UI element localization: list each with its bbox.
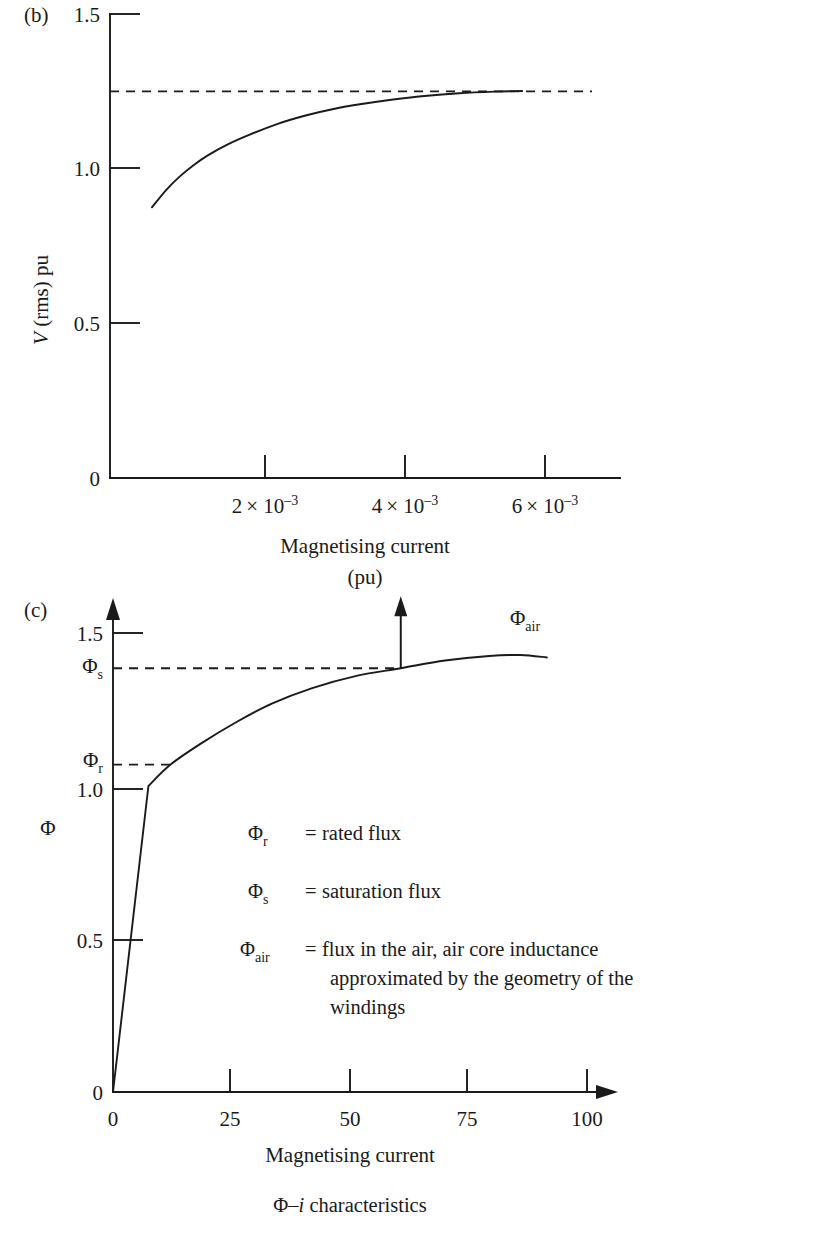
panel-c-legend-eq-1: = <box>305 880 317 902</box>
svg-text:2× 10–3: 2× 10–3 <box>232 493 299 518</box>
panel-b-x-axis-title-line1: Magnetising current <box>280 534 450 558</box>
panel-b-xlabel-4e-3-base: × 10 <box>386 494 424 518</box>
panel-c-legend-symbol-2: Φair <box>240 938 270 965</box>
panel-b-tag: (b) <box>24 3 49 27</box>
panel-c-tag: (c) <box>24 598 47 622</box>
panel-b-xlabel-4e-3-mantissa: 4 <box>372 494 383 518</box>
panel-c-annotation-arrow-head <box>394 596 407 616</box>
panel-c-legend: Φr = rated flux Φs = saturation flux Φai… <box>240 822 633 1019</box>
panel-c-marker-label-phi-r: Φr <box>83 748 103 776</box>
panel-c-marker-phi-r-sub: r <box>98 761 103 776</box>
panel-b-xlabel-2e-3-exp: –3 <box>283 493 298 508</box>
panel-c-legend-symbol-1: Φs <box>248 880 268 907</box>
panel-c-marker-label-phi-s: Φs <box>82 654 103 682</box>
figure-caption: Φ–i characteristics <box>273 1194 426 1216</box>
panel-c-legend-symbol-0-base: Φ <box>248 822 263 844</box>
svg-text:4× 10–3: 4× 10–3 <box>372 493 439 518</box>
panel-c-legend-eq-0: = <box>305 822 317 844</box>
panel-b-ylabel-0.5: 0.5 <box>74 312 100 336</box>
svg-text:6× 10–3: 6× 10–3 <box>512 493 579 518</box>
panel-b-xlabel-6e-3-exp: –3 <box>563 493 578 508</box>
panel-c-xlabel-0: 0 <box>108 1107 119 1131</box>
panel-c-legend-symbol-2-base: Φ <box>240 938 255 960</box>
figure-caption-rest: characteristics <box>304 1194 426 1216</box>
panel-c-ylabel-1.5: 1.5 <box>77 622 103 646</box>
panel-b-ylabel-0: 0 <box>90 467 101 491</box>
chart-panel-b: (b) 1.5 1.0 0.5 0 2× 10–3 <box>0 0 815 600</box>
panel-c-marker-phi-s-symbol: Φ <box>82 654 97 678</box>
panel-b-plot-area <box>110 91 592 207</box>
panel-c-marker-phi-r-symbol: Φ <box>83 748 98 772</box>
panel-c-marker-phi-s-sub: s <box>98 667 103 682</box>
panel-c-legend-text-0: rated flux <box>322 822 401 844</box>
figure-page: (b) 1.5 1.0 0.5 0 2× 10–3 <box>0 0 815 1233</box>
panel-b-xlabel-4e-3-exp: –3 <box>423 493 438 508</box>
panel-c-x-axis-title: Magnetising current <box>265 1143 435 1167</box>
panel-c-legend-text-1: saturation flux <box>322 880 441 902</box>
panel-c-legend-symbol-0: Φr <box>248 822 268 849</box>
panel-b-x-axis-title-line2: (pu) <box>348 565 383 589</box>
figure-caption-symbol: Φ– <box>273 1194 299 1216</box>
panel-c-legend-symbol-1-base: Φ <box>248 880 263 902</box>
panel-c-annotation-label-phi-air: Φair <box>510 606 540 634</box>
panel-c-legend-symbol-1-sub: s <box>263 892 268 907</box>
panel-c-svg: (c) 1.5 1.0 0.5 0 Φs Φr <box>0 595 815 1233</box>
panel-b-xlabel-2e-3: 2× 10–3 <box>232 493 299 518</box>
panel-c-y-axis-title: Φ <box>40 816 55 840</box>
panel-c-annotation-phi-air-symbol: Φ <box>510 606 525 630</box>
panel-b-ylabel-1.0: 1.0 <box>74 157 100 181</box>
panel-c-xlabel-50: 50 <box>340 1107 361 1131</box>
chart-panel-c: (c) 1.5 1.0 0.5 0 Φs Φr <box>0 595 815 1233</box>
panel-c-annotation-phi-air-sub: air <box>525 619 540 634</box>
panel-c-legend-text-2-line2: approximated by the geometry of the <box>330 967 633 990</box>
panel-b-y-axis-title-rest: (rms) pu <box>29 255 53 332</box>
panel-c-series-0 <box>113 655 547 1092</box>
panel-b-xlabel-6e-3-mantissa: 6 <box>512 494 523 518</box>
panel-b-ylabel-1.5: 1.5 <box>74 3 100 27</box>
panel-b-xlabel-6e-3: 6× 10–3 <box>512 493 579 518</box>
panel-c-legend-eq-2: = <box>305 938 317 960</box>
panel-c-legend-symbol-2-sub: air <box>255 950 270 965</box>
panel-c-ylabel-0.5: 0.5 <box>77 929 103 953</box>
panel-b-y-axis-title: V (rms) pu <box>29 255 53 345</box>
panel-c-xlabel-25: 25 <box>220 1107 241 1131</box>
panel-b-xlabel-6e-3-base: × 10 <box>526 494 564 518</box>
panel-b-xlabel-2e-3-base: × 10 <box>246 494 284 518</box>
panel-c-ylabel-0: 0 <box>93 1081 104 1105</box>
panel-c-ylabel-1.0: 1.0 <box>77 778 103 802</box>
panel-c-legend-text-2-line3: windings <box>330 996 405 1019</box>
panel-c-y-axis-arrowhead <box>106 598 120 620</box>
panel-c-xlabel-100: 100 <box>571 1107 603 1131</box>
panel-b-series-0 <box>152 91 522 207</box>
panel-b-svg: (b) 1.5 1.0 0.5 0 2× 10–3 <box>0 0 815 600</box>
panel-b-xlabel-2e-3-mantissa: 2 <box>232 494 243 518</box>
panel-c-x-axis-arrowhead <box>596 1085 618 1099</box>
panel-c-legend-text-2-line1: flux in the air, air core inductance <box>322 938 598 960</box>
panel-b-xlabel-4e-3: 4× 10–3 <box>372 493 439 518</box>
panel-c-xlabel-75: 75 <box>457 1107 478 1131</box>
panel-c-legend-symbol-0-sub: r <box>263 834 268 849</box>
